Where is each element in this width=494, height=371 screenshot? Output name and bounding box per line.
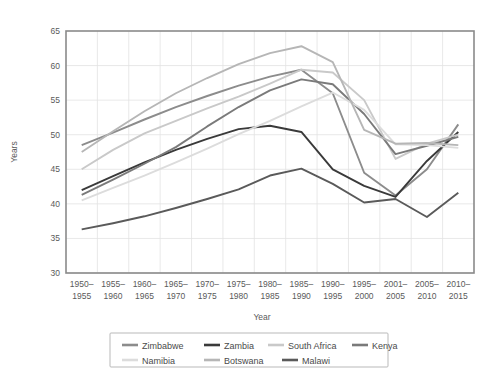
x-tick-top-5: 1975–: [227, 279, 251, 289]
x-tick-bottom-0: 1955: [72, 291, 91, 301]
x-tick-bottom-11: 2010: [417, 291, 436, 301]
x-tick-bottom-2: 1965: [135, 291, 154, 301]
plot-frame: [66, 31, 474, 273]
x-tick-bottom-1: 1960: [104, 291, 123, 301]
y-tick-60: 60: [51, 61, 61, 71]
legend-label-south-africa[interactable]: South Africa: [288, 341, 337, 351]
x-tick-top-0: 1950–: [70, 279, 94, 289]
y-tick-30: 30: [51, 268, 61, 278]
y-tick-55: 55: [51, 95, 61, 105]
y-axis-tick-labels: 3035404550556065: [51, 26, 61, 278]
x-tick-top-2: 1960–: [133, 279, 157, 289]
x-tick-bottom-12: 2015: [449, 291, 468, 301]
x-tick-top-12: 2010–: [446, 279, 470, 289]
series-line-namibia: [82, 93, 459, 201]
y-tick-40: 40: [51, 199, 61, 209]
x-axis-title: Year: [253, 312, 270, 322]
y-tick-45: 45: [51, 164, 61, 174]
x-tick-top-3: 1965–: [164, 279, 188, 289]
life-expectancy-line-chart: 3035404550556065 1950–19551955–19601960–…: [0, 0, 494, 371]
legend: ZimbabweZambiaSouth AfricaKenyaNamibiaBo…: [122, 341, 398, 366]
x-axis-tick-labels: 1950–19551955–19601960–19651965–19701970…: [70, 279, 471, 301]
x-tick-top-6: 1980–: [258, 279, 282, 289]
chart-container: 3035404550556065 1950–19551955–19601960–…: [0, 0, 494, 371]
legend-label-malawi[interactable]: Malawi: [302, 356, 330, 366]
legend-label-zimbabwe[interactable]: Zimbabwe: [142, 341, 184, 351]
x-tick-top-9: 1995–: [352, 279, 376, 289]
legend-label-kenya[interactable]: Kenya: [372, 341, 398, 351]
y-tick-50: 50: [51, 130, 61, 140]
x-tick-top-11: 2005–: [415, 279, 439, 289]
x-tick-bottom-3: 1970: [166, 291, 185, 301]
x-tick-bottom-5: 1980: [229, 291, 248, 301]
x-tick-top-7: 1985–: [290, 279, 314, 289]
x-tick-top-4: 1970–: [195, 279, 219, 289]
legend-label-botswana[interactable]: Botswana: [224, 356, 264, 366]
x-tick-bottom-9: 2000: [355, 291, 374, 301]
x-tick-top-1: 1955–: [101, 279, 125, 289]
x-tick-top-8: 1990–: [321, 279, 345, 289]
x-tick-bottom-10: 2005: [386, 291, 405, 301]
series-line-south-africa: [82, 70, 459, 170]
series-line-zimbabwe: [82, 70, 459, 196]
data-series-group: [82, 46, 459, 229]
x-tick-bottom-7: 1990: [292, 291, 311, 301]
y-tick-65: 65: [51, 26, 61, 36]
x-tick-bottom-8: 1995: [323, 291, 342, 301]
y-axis-title: Years: [9, 141, 19, 162]
x-tick-bottom-6: 1985: [261, 291, 280, 301]
x-tick-top-10: 2001–: [384, 279, 408, 289]
legend-label-zambia[interactable]: Zambia: [224, 341, 254, 351]
x-tick-bottom-4: 1975: [198, 291, 217, 301]
legend-label-namibia[interactable]: Namibia: [142, 356, 175, 366]
y-tick-35: 35: [51, 233, 61, 243]
